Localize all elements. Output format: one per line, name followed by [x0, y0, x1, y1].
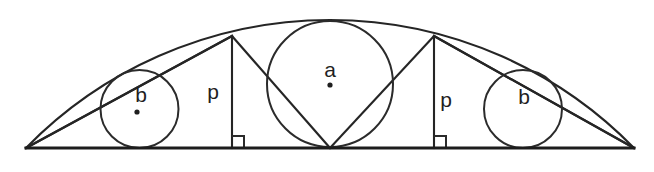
label-p-left: p — [207, 80, 219, 103]
label-p-right: p — [440, 88, 452, 111]
right-triangle-left-side — [330, 36, 434, 148]
circle-b-right — [484, 70, 562, 148]
diagram-canvas: a b b p p — [0, 0, 654, 172]
left-right-angle-marker — [232, 136, 244, 148]
left-triangle-right-side — [232, 36, 330, 148]
right-triangle-right-side — [434, 36, 634, 148]
right-right-angle-marker — [434, 136, 446, 148]
label-a: a — [324, 58, 336, 81]
circle-b-left-center-dot — [134, 109, 139, 114]
left-triangle-left-side — [26, 36, 232, 148]
circle-a-center-dot — [327, 82, 332, 87]
label-b-left: b — [135, 83, 147, 106]
geometry-diagram: a b b p p — [0, 0, 654, 172]
label-b-right: b — [518, 85, 530, 108]
